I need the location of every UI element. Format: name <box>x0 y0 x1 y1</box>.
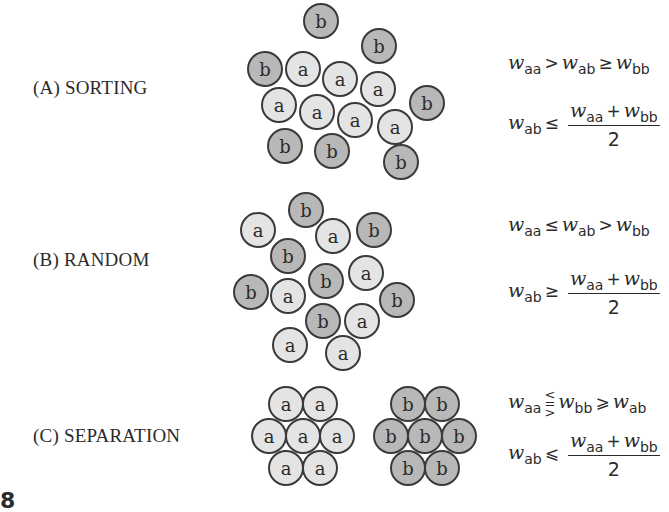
cell-b: b <box>407 418 443 454</box>
cell-b: b <box>303 3 339 39</box>
cell-a: a <box>322 61 358 97</box>
cell-b: b <box>233 274 269 310</box>
weight-symbol: wab <box>562 213 596 235</box>
cell-b: b <box>424 450 460 486</box>
cell-a: a <box>302 386 338 422</box>
weight-symbol: wbb <box>624 429 658 451</box>
cell-b: b <box>441 418 477 454</box>
weight-symbol: wab <box>508 279 542 301</box>
cell-b: b <box>267 128 303 164</box>
panel-c-eq2: wab⩽waa+wbb2 <box>508 428 660 480</box>
panel-a-eq2: wab≤waa+wbb2 <box>508 98 660 150</box>
operator: ⩾ <box>595 392 609 412</box>
weight-symbol: wab <box>562 51 596 73</box>
panel-b-eq2: wab≥waa+wbb2 <box>508 266 660 318</box>
cell-a: a <box>240 212 276 248</box>
operator: > <box>544 53 558 73</box>
fraction: waa+wbb2 <box>568 266 660 318</box>
weight-symbol: waa <box>570 429 603 451</box>
cell-b: b <box>409 85 445 121</box>
cell-b: b <box>288 192 324 228</box>
cell-b: b <box>424 386 460 422</box>
weight-symbol: wbb <box>616 51 650 73</box>
weight-symbol: waa <box>508 213 541 235</box>
cell-b: b <box>308 263 344 299</box>
cell-b: b <box>383 144 419 180</box>
operator: ≤ <box>545 113 559 133</box>
panel-c-label: (C) SEPARATION <box>33 425 180 447</box>
cell-b: b <box>270 238 306 274</box>
panel-c-eq1: waa<=>wbb⩾wab <box>508 389 646 417</box>
fraction: waa+wbb2 <box>568 428 660 480</box>
cell-a: a <box>285 418 321 454</box>
cell-a: a <box>344 303 380 339</box>
weight-symbol: wab <box>508 111 542 133</box>
weight-symbol: wbb <box>558 390 592 412</box>
cell-b: b <box>247 51 283 87</box>
cell-a: a <box>319 418 355 454</box>
cell-a: a <box>377 109 413 145</box>
operator: ≥ <box>598 53 612 73</box>
cell-b: b <box>379 282 415 318</box>
weight-symbol: waa <box>570 267 603 289</box>
operator: ≥ <box>545 281 559 301</box>
cell-a: a <box>302 450 338 486</box>
panel-b-eq1: waa≤wab>wbb <box>508 212 650 237</box>
cell-a: a <box>272 327 308 363</box>
weight-symbol: waa <box>508 390 541 412</box>
cell-b: b <box>361 28 397 64</box>
panel-b-label: (B) RANDOM <box>33 249 150 271</box>
operator: ⩽ <box>545 443 559 463</box>
weight-symbol: wab <box>508 441 542 463</box>
weight-symbol: waa <box>570 99 603 121</box>
operator: <=> <box>544 390 555 417</box>
cell-a: a <box>348 255 384 291</box>
cell-a: a <box>270 278 306 314</box>
cell-b: b <box>390 386 426 422</box>
cell-b: b <box>356 212 392 248</box>
weight-symbol: wbb <box>616 213 650 235</box>
cell-b: b <box>314 133 350 169</box>
weight-symbol: wab <box>613 390 647 412</box>
fraction: waa+wbb2 <box>568 98 660 150</box>
cell-b: b <box>305 303 341 339</box>
cell-a: a <box>325 335 361 371</box>
weight-symbol: wbb <box>624 99 658 121</box>
cell-b: b <box>390 450 426 486</box>
figure-number: 8 <box>0 488 15 512</box>
weight-symbol: wbb <box>624 267 658 289</box>
panel-a-label: (A) SORTING <box>33 77 148 99</box>
cell-a: a <box>285 51 321 87</box>
cell-a: a <box>268 386 304 422</box>
cell-a: a <box>337 102 373 138</box>
cell-a: a <box>315 218 351 254</box>
cell-a: a <box>360 71 396 107</box>
cell-a: a <box>299 94 335 130</box>
cell-b: b <box>373 418 409 454</box>
panel-a-eq1: waa>wab≥wbb <box>508 50 650 75</box>
operator: > <box>598 215 612 235</box>
cell-a: a <box>251 418 287 454</box>
weight-symbol: waa <box>508 51 541 73</box>
cell-a: a <box>261 87 297 123</box>
operator: ≤ <box>544 215 558 235</box>
cell-a: a <box>268 450 304 486</box>
